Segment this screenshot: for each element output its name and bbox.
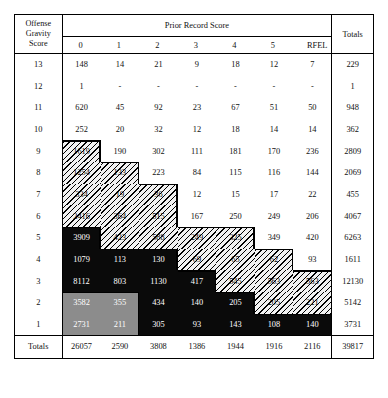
cell-value: 15	[231, 190, 239, 199]
cell-ogs-5-prs-RFEL: 420	[293, 227, 332, 249]
row-total: 2069	[332, 162, 374, 184]
cell-value: 20	[116, 125, 124, 134]
cell-value: 349	[268, 233, 281, 242]
cell-value: 3909	[73, 233, 90, 242]
cell-ogs-9-prs-RFEL: 236	[293, 140, 332, 162]
table-totals-row: Totals2605725903808138619441916211639817	[15, 335, 374, 358]
cell-value: 65	[231, 255, 239, 264]
cell-ogs-5-prs-1: 423	[101, 227, 140, 249]
prior-record-score-header: Prior Record Score	[62, 15, 332, 37]
cell-value: 8112	[73, 277, 89, 286]
cell-value: 50	[308, 103, 316, 112]
cell-value: 2416	[73, 212, 90, 221]
cell-ogs-6-prs-0: 2416	[62, 205, 101, 227]
cell-value: 3582	[73, 298, 90, 307]
table-header: Offense Gravity Score Prior Record Score…	[15, 15, 374, 54]
cell-value: 325	[229, 233, 242, 242]
cell-value: 26057	[71, 342, 92, 351]
cell-value: 1619	[73, 147, 90, 156]
cell-value: 250	[229, 212, 242, 221]
cell-value: 420	[306, 233, 319, 242]
row-total: 5142	[332, 292, 374, 314]
region-boundary-top	[63, 292, 101, 293]
cell-ogs-9-prs-1: 190	[101, 140, 140, 162]
region-boundary-right	[176, 205, 177, 227]
cell-value: 305	[152, 320, 165, 329]
cell-ogs-13-prs-1: 14	[101, 54, 140, 76]
table-row: 624163645151672502492064067	[15, 205, 374, 227]
table-row: 121------1	[15, 75, 374, 97]
cell-value: 1079	[73, 255, 90, 264]
column-total-prs-5: 1916	[255, 335, 294, 358]
row-label-ogs: 11	[15, 97, 63, 119]
column-total-prs-1: 2590	[101, 335, 140, 358]
cell-ogs-12-prs-2: -	[139, 75, 178, 97]
header-row-group: Offense Gravity Score Prior Record Score…	[15, 15, 374, 37]
cell-value: 302	[152, 147, 165, 156]
region-boundary-right	[138, 314, 139, 335]
cell-ogs-6-prs-2: 515	[139, 205, 178, 227]
row-total: 455	[332, 184, 374, 206]
region-boundary-top	[139, 184, 178, 185]
row-label-ogs: 12	[15, 75, 63, 97]
cell-ogs-11-prs-3: 23	[178, 97, 217, 119]
region-boundary-top	[216, 292, 255, 293]
cell-value: 51	[270, 103, 278, 112]
region-boundary-top	[101, 292, 140, 293]
cell-ogs-5-prs-2: 588	[139, 227, 178, 249]
cell-value: 1254	[73, 168, 90, 177]
cell-value: 803	[114, 277, 127, 286]
row-label-ogs: 3	[15, 270, 63, 292]
cell-value: 93	[193, 320, 201, 329]
cell-ogs-11-prs-5: 51	[255, 97, 294, 119]
cell-value: 111	[191, 147, 203, 156]
cell-ogs-7-prs-1: 19	[101, 184, 140, 206]
column-total-prs-2: 3808	[139, 335, 178, 358]
cell-ogs-2-prs-1: 355	[101, 292, 140, 314]
cell-value: 563	[268, 277, 281, 286]
cell-value: 115	[229, 168, 241, 177]
table-row: 41079113130696562931611	[15, 249, 374, 271]
cell-ogs-8-prs-RFEL: 144	[293, 162, 332, 184]
cell-ogs-13-prs-RFEL: 7	[293, 54, 332, 76]
cell-value: 2731	[73, 320, 90, 329]
cell-value: 12	[193, 190, 201, 199]
cell-ogs-7-prs-3: 12	[178, 184, 217, 206]
cell-value: 143	[229, 320, 242, 329]
cell-ogs-5-prs-5: 349	[255, 227, 294, 249]
cell-value: 249	[191, 233, 204, 242]
cell-ogs-9-prs-4: 181	[216, 140, 255, 162]
cell-ogs-3-prs-RFEL: 563	[293, 270, 332, 292]
table-row: 10252203212181414362	[15, 119, 374, 141]
cell-value: 93	[308, 255, 316, 264]
cell-value: 563	[306, 277, 319, 286]
row-label-ogs: 8	[15, 162, 63, 184]
cell-ogs-3-prs-4: 545	[216, 270, 255, 292]
row-total: 4067	[332, 205, 374, 227]
header-row-columns: 0 1 2 3 4 5 RFEL	[15, 37, 374, 54]
region-boundary-top	[101, 162, 140, 163]
cell-value: 21	[154, 60, 162, 69]
cell-value: -	[273, 82, 276, 91]
cell-value: 17	[270, 190, 278, 199]
cell-ogs-4-prs-1: 113	[101, 249, 140, 271]
cell-value: 12	[193, 125, 201, 134]
cell-value: 19	[116, 190, 124, 199]
cell-value: 67	[231, 103, 239, 112]
cell-ogs-4-prs-3: 69	[178, 249, 217, 271]
cell-ogs-2-prs-3: 140	[178, 292, 217, 314]
column-header-prs-1: 1	[101, 37, 140, 54]
cell-ogs-1-prs-2: 305	[139, 314, 178, 336]
cell-value: 2590	[112, 342, 129, 351]
table-page: Offense Gravity Score Prior Record Score…	[0, 0, 388, 398]
cell-value: 167	[191, 212, 204, 221]
cell-ogs-3-prs-3: 417	[178, 270, 217, 292]
cell-value: 170	[268, 147, 281, 156]
cell-value: 23	[193, 103, 201, 112]
cell-value: 133	[114, 168, 127, 177]
table-row: 131481421918127229	[15, 54, 374, 76]
table-row: 11620459223675150948	[15, 97, 374, 119]
cell-value: 252	[75, 125, 88, 134]
cell-ogs-10-prs-2: 32	[139, 119, 178, 141]
cell-ogs-1-prs-3: 93	[178, 314, 217, 336]
